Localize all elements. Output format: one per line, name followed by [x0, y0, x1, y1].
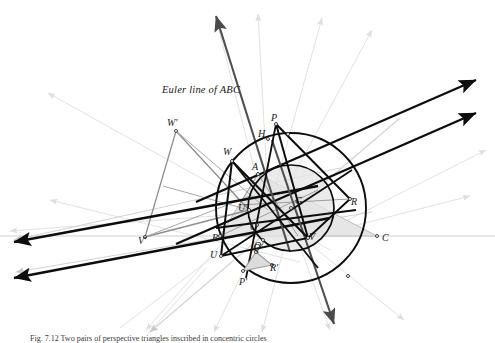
label-V: V [309, 232, 315, 242]
label-H: H [258, 129, 265, 139]
label-R-prime: R' [270, 263, 278, 273]
point-circum-low [347, 275, 350, 278]
label-W-prime: W' [167, 118, 177, 128]
point-circum-top [287, 133, 290, 136]
label-O: O [250, 222, 257, 232]
point-B [219, 235, 222, 238]
label-G: G [295, 196, 302, 206]
label-A: A [252, 162, 258, 172]
point-U-prime [248, 209, 251, 212]
point-G [290, 207, 293, 210]
light-ray-bundle [10, 14, 486, 334]
point-A [257, 173, 260, 176]
point-W [231, 160, 234, 163]
label-C: C [382, 233, 389, 243]
label-U: U [210, 250, 217, 260]
point-W-prime [175, 130, 178, 133]
point-C [376, 235, 379, 238]
label-V-prime: V' [138, 236, 146, 246]
label-W: W [223, 147, 231, 157]
label-U-prime: U' [238, 203, 247, 213]
label-Q-prime: Q' [253, 243, 262, 253]
figure-caption: Fig. 7.12 Two pairs of perspective trian… [30, 334, 267, 343]
label-R: R [351, 197, 357, 207]
euler-line-label: Euler line of ABC [162, 84, 240, 95]
label-P-prime: P' [239, 277, 247, 287]
label-P: P [271, 113, 277, 123]
point-U [220, 255, 223, 258]
point-P-prime [242, 270, 245, 273]
point-H [267, 138, 270, 141]
label-B: B [212, 233, 218, 243]
